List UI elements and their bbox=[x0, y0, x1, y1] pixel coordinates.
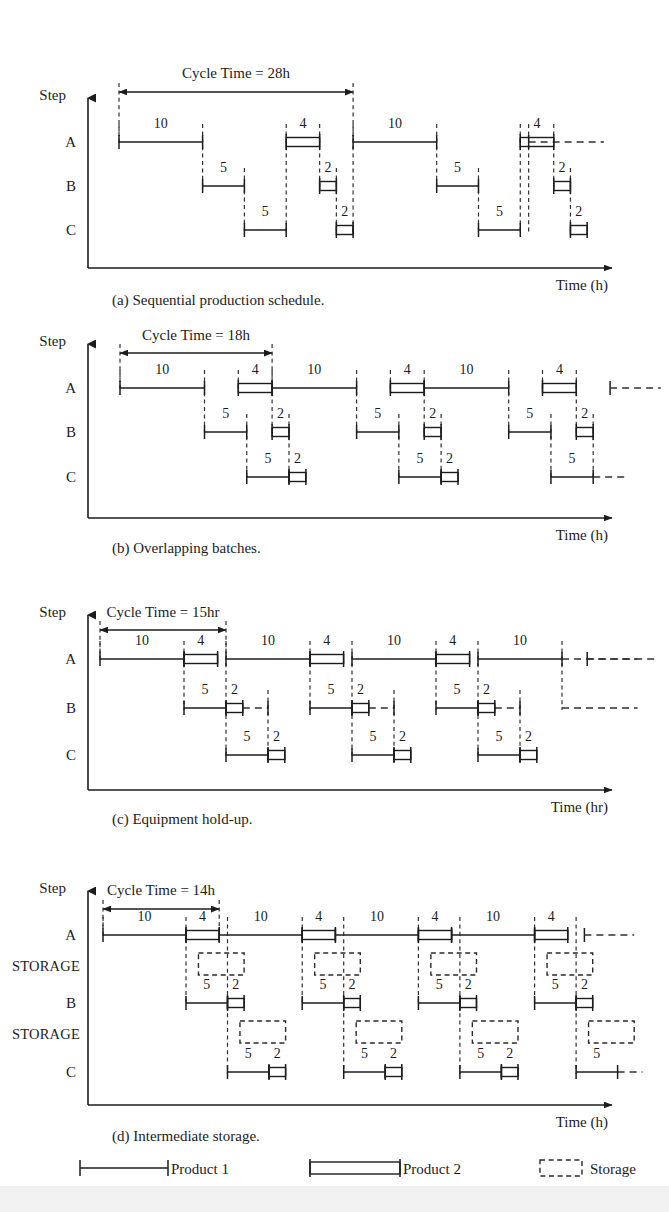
task-d-C-p2-17[interactable]: 2 bbox=[501, 1046, 518, 1080]
task-a-C-p2-5[interactable]: 2 bbox=[336, 204, 353, 238]
task-d-B-p1-20[interactable]: 5 bbox=[535, 977, 577, 1010]
task-c-C-p1-16[interactable]: 5 bbox=[478, 729, 520, 762]
product2-bar bbox=[268, 751, 285, 760]
task-d-A-p2-7[interactable]: 4 bbox=[302, 909, 335, 943]
task-c-B-p1-8[interactable]: 5 bbox=[310, 682, 352, 715]
task-d-B-p1-2[interactable]: 5 bbox=[186, 977, 228, 1010]
row-label-b-A: A bbox=[65, 380, 76, 396]
duration-label: 2 bbox=[581, 977, 588, 992]
task-c-C-p2-5[interactable]: 2 bbox=[268, 729, 285, 763]
row-label-d-B: B bbox=[66, 995, 76, 1011]
task-d-C-p1-10[interactable]: 5 bbox=[344, 1046, 386, 1079]
task-b-C-p1-8[interactable]: 5 bbox=[399, 451, 441, 484]
task-d-C-p2-11[interactable]: 2 bbox=[385, 1046, 402, 1080]
duration-label: 10 bbox=[254, 909, 268, 924]
task-c-A-p1-6[interactable]: 10 bbox=[226, 633, 310, 666]
duration-label: 10 bbox=[138, 909, 152, 924]
task-d-A-p2-19[interactable]: 4 bbox=[535, 909, 568, 943]
task-d-B-p2-21[interactable]: 2 bbox=[576, 977, 593, 1011]
task-d-A-p1-0[interactable]: 10 bbox=[103, 909, 186, 942]
figure-canvas: StepTime (h)ABCCycle Time = 28h105542210… bbox=[0, 0, 669, 1186]
product2-bar bbox=[286, 138, 319, 147]
task-a-B-p2-4[interactable]: 2 bbox=[320, 160, 337, 194]
task-c-C-p2-11[interactable]: 2 bbox=[394, 729, 411, 763]
task-c-C-p1-4[interactable]: 5 bbox=[226, 729, 268, 762]
task-d-B-p1-8[interactable]: 5 bbox=[302, 977, 344, 1010]
task-b-A-p1-12[interactable]: 10 bbox=[424, 362, 509, 395]
duration-label: 2 bbox=[483, 682, 490, 697]
task-a-A-p2-3[interactable]: 4 bbox=[286, 116, 319, 150]
task-b-A-p2-3[interactable]: 4 bbox=[238, 362, 272, 396]
task-b-A-p2-9[interactable]: 4 bbox=[390, 362, 424, 396]
task-d-C-p2-5[interactable]: 2 bbox=[269, 1046, 286, 1080]
storage-row-label-d-S2: STORAGE bbox=[12, 1026, 80, 1042]
task-b-C-p2-11[interactable]: 2 bbox=[441, 451, 458, 485]
duration-label: 10 bbox=[370, 909, 384, 924]
task-c-A-p2-7[interactable]: 4 bbox=[310, 633, 344, 667]
task-c-B-p1-14[interactable]: 5 bbox=[436, 682, 478, 715]
task-c-A-p2-1[interactable]: 4 bbox=[184, 633, 218, 667]
product2-bar bbox=[186, 931, 219, 940]
task-c-C-p1-10[interactable]: 5 bbox=[352, 729, 394, 762]
task-b-A-p1-0[interactable]: 10 bbox=[120, 362, 205, 395]
task-d-A-p2-1[interactable]: 4 bbox=[186, 909, 219, 943]
duration-label: 4 bbox=[197, 633, 204, 648]
task-a-C-p1-2[interactable]: 5 bbox=[244, 204, 286, 237]
task-c-B-p1-2[interactable]: 5 bbox=[184, 682, 226, 715]
task-c-C-p2-17[interactable]: 2 bbox=[520, 729, 537, 763]
task-d-A-p1-12[interactable]: 10 bbox=[335, 909, 418, 942]
task-a-B-p2-10[interactable]: 2 bbox=[554, 160, 571, 194]
cycle-time-label-b: Cycle Time = 18h bbox=[142, 327, 251, 343]
row-label-c-B: B bbox=[66, 700, 76, 716]
time-axis-label-d: Time (h) bbox=[556, 1114, 608, 1131]
task-a-C-p2-11[interactable]: 2 bbox=[570, 204, 587, 238]
duration-label: 2 bbox=[390, 1046, 397, 1061]
task-b-C-p1-2[interactable]: 5 bbox=[247, 451, 289, 484]
task-b-B-p2-4[interactable]: 2 bbox=[272, 406, 289, 440]
task-d-C-p1-22[interactable]: 5 bbox=[576, 1046, 618, 1079]
step-axis-label-b: Step bbox=[39, 333, 66, 349]
task-b-C-p2-5[interactable]: 2 bbox=[289, 451, 306, 485]
task-d-A-p2-13[interactable]: 4 bbox=[418, 909, 451, 943]
task-a-A-p1-6[interactable]: 10 bbox=[353, 116, 437, 149]
task-b-A-p1-6[interactable]: 10 bbox=[272, 362, 357, 395]
cycle-time-label-d: Cycle Time = 14h bbox=[107, 882, 216, 898]
duration-label: 2 bbox=[294, 451, 301, 466]
storage-box-d-7 bbox=[589, 1021, 635, 1043]
duration-label: 5 bbox=[328, 682, 335, 697]
task-d-C-p1-4[interactable]: 5 bbox=[228, 1046, 270, 1079]
task-d-A-p1-18[interactable]: 10 bbox=[452, 909, 535, 942]
task-b-B-p2-10[interactable]: 2 bbox=[424, 406, 441, 440]
task-d-B-p2-9[interactable]: 2 bbox=[344, 977, 361, 1011]
task-c-A-p1-18[interactable]: 10 bbox=[478, 633, 562, 666]
task-d-B-p2-3[interactable]: 2 bbox=[228, 977, 245, 1011]
duration-label: 4 bbox=[534, 116, 541, 131]
task-d-B-p2-15[interactable]: 2 bbox=[460, 977, 477, 1011]
task-c-A-p1-0[interactable]: 10 bbox=[100, 633, 184, 666]
task-a-A-p1-0[interactable]: 10 bbox=[119, 116, 203, 149]
task-a-C-p1-8[interactable]: 5 bbox=[478, 204, 520, 237]
task-a-B-p1-7[interactable]: 5 bbox=[437, 160, 479, 193]
task-c-B-p2-3[interactable]: 2 bbox=[226, 682, 243, 716]
task-c-B-p2-9[interactable]: 2 bbox=[352, 682, 369, 716]
product2-bar bbox=[554, 182, 571, 191]
duration-label: 2 bbox=[575, 204, 582, 219]
task-c-A-p1-12[interactable]: 10 bbox=[352, 633, 436, 666]
task-b-B-p1-13[interactable]: 5 bbox=[509, 406, 551, 439]
task-d-A-p1-6[interactable]: 10 bbox=[219, 909, 302, 942]
legend-product2-bar bbox=[310, 1162, 400, 1174]
product2-bar bbox=[418, 931, 451, 940]
task-c-A-p2-13[interactable]: 4 bbox=[436, 633, 470, 667]
task-b-A-p2-15[interactable]: 4 bbox=[543, 362, 577, 396]
duration-label: 4 bbox=[315, 909, 322, 924]
task-d-C-p1-16[interactable]: 5 bbox=[460, 1046, 502, 1079]
product2-bar bbox=[394, 751, 411, 760]
task-a-A-p2-9[interactable]: 4 bbox=[520, 116, 553, 150]
task-a-B-p1-1[interactable]: 5 bbox=[203, 160, 245, 193]
task-b-B-p2-16[interactable]: 2 bbox=[576, 406, 593, 440]
task-b-B-p1-1[interactable]: 5 bbox=[205, 406, 247, 439]
task-b-B-p1-7[interactable]: 5 bbox=[357, 406, 399, 439]
task-c-B-p2-15[interactable]: 2 bbox=[478, 682, 495, 716]
task-d-B-p1-14[interactable]: 5 bbox=[418, 977, 460, 1010]
task-b-C-p1-14[interactable]: 5 bbox=[551, 451, 593, 484]
